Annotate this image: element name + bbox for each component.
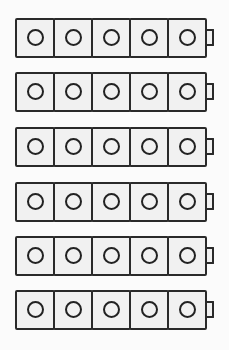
cube-hole-icon: [179, 247, 196, 264]
cube-hole-icon: [141, 138, 158, 155]
cube: [167, 182, 207, 222]
cube-hole-icon: [65, 29, 82, 46]
cube: [129, 236, 169, 276]
cube-train-5: [15, 236, 214, 275]
cube-hole-icon: [179, 29, 196, 46]
cube-train-3: [15, 127, 214, 166]
connector-nub-icon: [207, 301, 214, 318]
cube-hole-icon: [103, 29, 120, 46]
cube-hole-icon: [103, 301, 120, 318]
cube: [53, 236, 93, 276]
cube: [53, 290, 93, 330]
cube-hole-icon: [27, 247, 44, 264]
cube-hole-icon: [27, 301, 44, 318]
cube-hole-icon: [103, 193, 120, 210]
cube: [129, 72, 169, 112]
cube-hole-icon: [65, 138, 82, 155]
cube-train-2: [15, 72, 214, 111]
cube: [53, 182, 93, 222]
cube-train-6: [15, 290, 214, 329]
cube-hole-icon: [141, 83, 158, 100]
cube: [15, 127, 55, 167]
cube-hole-icon: [179, 193, 196, 210]
cube-hole-icon: [65, 301, 82, 318]
cube: [53, 127, 93, 167]
cube: [15, 182, 55, 222]
cube: [91, 72, 131, 112]
cube-hole-icon: [65, 193, 82, 210]
cube-train-4: [15, 182, 214, 221]
cube-hole-icon: [65, 247, 82, 264]
cube-hole-icon: [179, 301, 196, 318]
cube: [167, 236, 207, 276]
cube: [91, 182, 131, 222]
cube: [129, 182, 169, 222]
cube: [167, 127, 207, 167]
cube-hole-icon: [27, 83, 44, 100]
cube: [129, 18, 169, 58]
cube: [15, 236, 55, 276]
cube-hole-icon: [103, 138, 120, 155]
cube: [53, 18, 93, 58]
cube: [129, 290, 169, 330]
cube-hole-icon: [27, 138, 44, 155]
cube-hole-icon: [179, 83, 196, 100]
cube: [167, 18, 207, 58]
connector-nub-icon: [207, 138, 214, 155]
cube: [91, 127, 131, 167]
connector-nub-icon: [207, 193, 214, 210]
connector-nub-icon: [207, 29, 214, 46]
cube-hole-icon: [65, 83, 82, 100]
connector-nub-icon: [207, 247, 214, 264]
cube-hole-icon: [141, 193, 158, 210]
cube-hole-icon: [103, 247, 120, 264]
cube: [129, 127, 169, 167]
cube-hole-icon: [27, 29, 44, 46]
connector-nub-icon: [207, 83, 214, 100]
cube: [91, 18, 131, 58]
cube: [91, 290, 131, 330]
cube: [53, 72, 93, 112]
cube: [15, 72, 55, 112]
cube-hole-icon: [103, 83, 120, 100]
cube-train-1: [15, 18, 214, 57]
cube: [167, 290, 207, 330]
cube: [15, 290, 55, 330]
cube: [15, 18, 55, 58]
cube-hole-icon: [141, 29, 158, 46]
cube-hole-icon: [141, 301, 158, 318]
cube-hole-icon: [179, 138, 196, 155]
cube: [167, 72, 207, 112]
cube-hole-icon: [141, 247, 158, 264]
cube: [91, 236, 131, 276]
cube-hole-icon: [27, 193, 44, 210]
